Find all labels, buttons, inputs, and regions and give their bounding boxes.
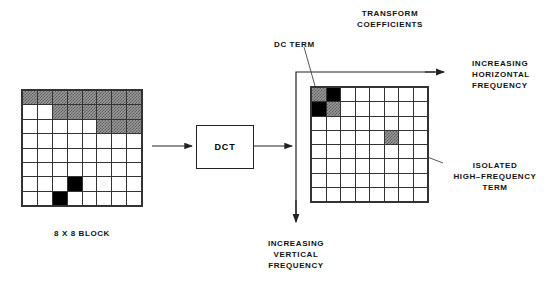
isolated-high-frequency-term-label: ISOLATED HIGH–FREQUENCY TERM [440, 160, 550, 193]
spatial-cell-0-2 [53, 91, 67, 104]
coefficient-cell-2-0 [312, 117, 326, 130]
spatial-cell-6-7 [127, 177, 141, 190]
spatial-cell-2-5 [97, 120, 111, 133]
spatial-cell-4-0 [23, 149, 37, 162]
spatial-cell-6-6 [112, 177, 126, 190]
diagram-canvas: 8 X 8 BLOCK DCT TRANSFORM COEFFICIENTS D… [0, 0, 555, 296]
spatial-cell-7-0 [23, 192, 37, 205]
spatial-cell-1-5 [97, 105, 111, 118]
spatial-cell-2-7 [127, 120, 141, 133]
spatial-cell-4-6 [112, 149, 126, 162]
coefficient-cell-3-4 [370, 131, 384, 144]
spatial-cell-6-3 [68, 177, 82, 190]
coefficient-cell-0-3 [356, 88, 370, 101]
coefficient-cell-3-6 [399, 131, 413, 144]
spatial-cell-3-1 [38, 134, 52, 147]
spatial-cell-3-3 [68, 134, 82, 147]
coefficient-cell-5-1 [327, 159, 341, 172]
spatial-cell-2-0 [23, 120, 37, 133]
coefficient-cell-1-6 [399, 102, 413, 115]
spatial-cell-2-1 [38, 120, 52, 133]
coefficient-cell-3-2 [341, 131, 355, 144]
dct-label: DCT [215, 142, 236, 152]
coefficient-cell-4-1 [327, 145, 341, 158]
spatial-cell-5-7 [127, 163, 141, 176]
spatial-cell-2-2 [53, 120, 67, 133]
spatial-cell-5-4 [83, 163, 97, 176]
coefficient-cell-0-4 [370, 88, 384, 101]
coefficient-cell-5-2 [341, 159, 355, 172]
coefficient-cell-5-7 [414, 159, 428, 172]
spatial-cell-7-1 [38, 192, 52, 205]
spatial-cell-6-1 [38, 177, 52, 190]
coefficient-cell-4-0 [312, 145, 326, 158]
spatial-cell-6-2 [53, 177, 67, 190]
increasing-vertical-line2: VERTICAL [246, 249, 346, 260]
coefficient-cell-2-6 [399, 117, 413, 130]
transform-coefficients-line1: TRANSFORM [330, 8, 450, 19]
coefficient-cell-4-3 [356, 145, 370, 158]
coefficient-cell-5-0 [312, 159, 326, 172]
spatial-cell-1-0 [23, 105, 37, 118]
spatial-cell-4-7 [127, 149, 141, 162]
spatial-cell-5-3 [68, 163, 82, 176]
coefficient-cell-6-5 [385, 174, 399, 187]
spatial-cell-5-2 [53, 163, 67, 176]
increasing-vertical-frequency-label: INCREASING VERTICAL FREQUENCY [246, 238, 346, 271]
spatial-cell-1-2 [53, 105, 67, 118]
coefficient-cell-0-0 [312, 88, 326, 101]
spatial-cell-5-0 [23, 163, 37, 176]
spatial-cell-0-5 [97, 91, 111, 104]
spatial-cell-1-3 [68, 105, 82, 118]
spatial-block-grid [21, 89, 143, 207]
coefficient-cell-7-1 [327, 188, 341, 201]
coefficient-cell-0-6 [399, 88, 413, 101]
spatial-cell-7-5 [97, 192, 111, 205]
coefficient-cell-1-5 [385, 102, 399, 115]
coefficient-cell-5-3 [356, 159, 370, 172]
coefficient-cell-4-2 [341, 145, 355, 158]
spatial-cell-0-4 [83, 91, 97, 104]
spatial-cell-7-6 [112, 192, 126, 205]
coefficient-cell-6-0 [312, 174, 326, 187]
isolated-hf-line3: TERM [440, 182, 550, 193]
spatial-cell-0-6 [112, 91, 126, 104]
spatial-cell-7-2 [53, 192, 67, 205]
spatial-cell-7-4 [83, 192, 97, 205]
coefficient-cell-7-5 [385, 188, 399, 201]
coefficient-cell-5-6 [399, 159, 413, 172]
spatial-cell-3-6 [112, 134, 126, 147]
spatial-cell-3-2 [53, 134, 67, 147]
coefficient-cell-2-2 [341, 117, 355, 130]
spatial-cell-3-0 [23, 134, 37, 147]
spatial-cell-5-1 [38, 163, 52, 176]
spatial-cell-6-0 [23, 177, 37, 190]
isolated-hf-line1: ISOLATED [440, 160, 550, 171]
coefficient-cell-0-7 [414, 88, 428, 101]
spatial-cell-1-7 [127, 105, 141, 118]
coefficient-cell-3-7 [414, 131, 428, 144]
spatial-cell-6-5 [97, 177, 111, 190]
spatial-cell-3-7 [127, 134, 141, 147]
coefficient-cell-6-6 [399, 174, 413, 187]
coefficient-cell-6-3 [356, 174, 370, 187]
coefficient-cell-6-1 [327, 174, 341, 187]
isolated-hf-line2: HIGH–FREQUENCY [440, 171, 550, 182]
coefficient-cell-4-6 [399, 145, 413, 158]
increasing-vertical-line3: FREQUENCY [246, 260, 346, 271]
spatial-cell-4-3 [68, 149, 82, 162]
increasing-horizontal-frequency-label: INCREASING HORIZONTAL FREQUENCY [472, 58, 530, 91]
increasing-vertical-line1: INCREASING [246, 238, 346, 249]
coefficient-cell-3-5 [385, 131, 399, 144]
spatial-cell-1-4 [83, 105, 97, 118]
transform-coefficients-label: TRANSFORM COEFFICIENTS [330, 8, 450, 30]
coefficient-cell-2-5 [385, 117, 399, 130]
coefficient-cell-7-2 [341, 188, 355, 201]
coefficient-cell-4-7 [414, 145, 428, 158]
coefficient-cell-2-1 [327, 117, 341, 130]
coefficient-cell-4-4 [370, 145, 384, 158]
coefficient-cell-1-3 [356, 102, 370, 115]
transform-coefficients-line2: COEFFICIENTS [330, 19, 450, 30]
coefficient-block-grid [310, 86, 429, 203]
coefficient-cell-5-5 [385, 159, 399, 172]
